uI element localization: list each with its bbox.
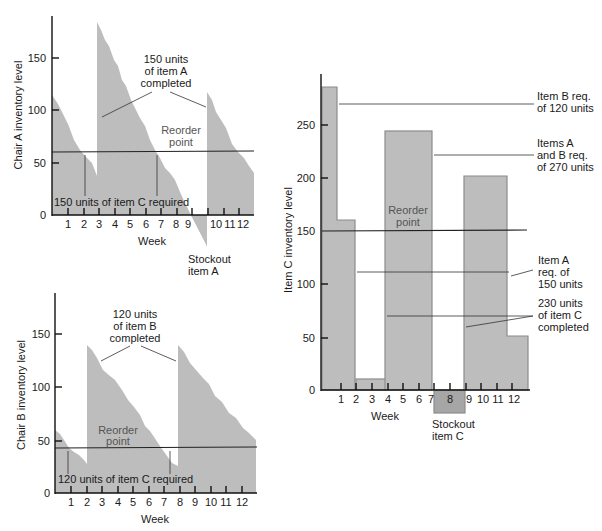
chart-c-reorder-label: Reorder xyxy=(388,204,428,216)
svg-text:7: 7 xyxy=(428,393,434,405)
svg-text:12: 12 xyxy=(508,393,520,405)
svg-text:7: 7 xyxy=(161,496,167,508)
chart-a-completed-annotation: 150 units xyxy=(144,53,189,65)
chart-b-ytick-0: 0 xyxy=(44,487,50,499)
svg-text:3: 3 xyxy=(369,393,375,405)
chart-c-item-b-annotation: Item B req. xyxy=(537,90,591,102)
svg-text:6: 6 xyxy=(416,393,422,405)
chart-a-required-annotation: 150 units of item C required xyxy=(54,196,189,208)
svg-text:1: 1 xyxy=(338,393,344,405)
svg-text:1: 1 xyxy=(68,496,74,508)
chart-a-stockout-annotation: Stockout xyxy=(188,253,231,265)
svg-text:and B req.: and B req. xyxy=(537,149,588,161)
svg-text:of item B: of item B xyxy=(113,320,156,332)
chart-a-xlabel: Week xyxy=(138,235,166,247)
chart-c-bar-weeks-9-12 xyxy=(464,176,528,390)
chart-b: 150 100 50 0 1 2 3 4 5 6 7 8 9 10 xyxy=(15,293,257,525)
svg-text:1: 1 xyxy=(65,218,71,230)
svg-text:2: 2 xyxy=(353,393,359,405)
chart-c-ytick-250: 250 xyxy=(297,119,315,131)
chart-b-ytick-100: 100 xyxy=(32,381,50,393)
chart-a-ytick-100: 100 xyxy=(28,104,46,116)
chart-c-ytick-0: 0 xyxy=(309,384,315,396)
chart-c-ytick-100: 100 xyxy=(297,278,315,290)
svg-text:9: 9 xyxy=(185,218,191,230)
svg-text:5: 5 xyxy=(127,218,133,230)
chart-c-items-ab-annotation: Items A xyxy=(537,137,574,149)
chart-b-leader-line xyxy=(141,346,176,361)
svg-text:12: 12 xyxy=(236,496,248,508)
chart-a-stockout-area xyxy=(191,215,207,246)
svg-text:2: 2 xyxy=(84,496,90,508)
svg-text:of item A: of item A xyxy=(145,65,188,77)
chart-c-ytick-150: 150 xyxy=(297,225,315,237)
svg-text:req. of: req. of xyxy=(538,266,570,278)
svg-text:item C: item C xyxy=(432,430,464,442)
chart-c-bar-weeks-4-7 xyxy=(385,131,432,390)
svg-text:4: 4 xyxy=(115,496,121,508)
chart-b-xlabel: Week xyxy=(141,513,169,525)
chart-b-leader-line xyxy=(101,346,130,361)
chart-c-ylabel: Item C inventory level xyxy=(282,187,294,293)
chart-c-stockout-annotation: Stockout xyxy=(432,418,475,430)
svg-text:of 270 units: of 270 units xyxy=(537,161,594,173)
chart-c: 250 200 150 100 50 0 1 2 3 4 5 6 7 8 xyxy=(282,74,594,442)
svg-text:11: 11 xyxy=(224,218,235,230)
svg-text:point: point xyxy=(169,136,193,148)
chart-c-xlabel: Week xyxy=(371,410,399,422)
chart-a-ytick-0: 0 xyxy=(40,209,46,221)
svg-text:8: 8 xyxy=(173,218,179,230)
chart-c-completed-annotation: 230 units xyxy=(538,297,583,309)
svg-text:of item C: of item C xyxy=(538,309,582,321)
chart-b-required-annotation: 120 units of item C required xyxy=(58,473,193,485)
chart-a-leader-line xyxy=(170,92,206,107)
svg-text:2: 2 xyxy=(81,218,87,230)
svg-text:12: 12 xyxy=(237,218,249,230)
chart-c-leader-item-a-tail xyxy=(511,270,533,276)
svg-text:11: 11 xyxy=(492,393,503,405)
svg-text:completed: completed xyxy=(538,321,589,333)
svg-text:point: point xyxy=(396,216,420,228)
chart-c-item-a-annotation: Item A xyxy=(538,254,570,266)
figure-canvas: 150 100 50 0 1 2 3 4 5 6 7 8 9 10 xyxy=(0,0,602,531)
svg-text:11: 11 xyxy=(220,496,231,508)
svg-text:point: point xyxy=(106,435,130,447)
svg-text:10: 10 xyxy=(205,496,217,508)
svg-text:7: 7 xyxy=(158,218,164,230)
chart-b-area xyxy=(55,345,256,493)
svg-text:completed: completed xyxy=(141,77,192,89)
svg-text:6: 6 xyxy=(143,218,149,230)
svg-text:3: 3 xyxy=(99,496,105,508)
svg-text:completed: completed xyxy=(110,332,161,344)
svg-text:4: 4 xyxy=(385,393,391,405)
svg-text:4: 4 xyxy=(112,218,118,230)
svg-text:150 units: 150 units xyxy=(538,278,583,290)
svg-text:6: 6 xyxy=(146,496,152,508)
svg-text:of 120 units: of 120 units xyxy=(537,102,594,114)
svg-text:8: 8 xyxy=(447,393,453,405)
chart-c-bar-weeks-0-2 xyxy=(322,87,355,390)
svg-text:8: 8 xyxy=(177,496,183,508)
chart-b-ylabel: Chair B inventory level xyxy=(15,340,27,450)
chart-a-ylabel: Chair A inventory level xyxy=(12,61,24,170)
chart-c-ytick-50: 50 xyxy=(303,332,315,344)
chart-b-ytick-50: 50 xyxy=(38,435,50,447)
chart-a-ytick-150: 150 xyxy=(28,52,46,64)
chart-a-reorder-label: Reorder xyxy=(161,124,201,136)
svg-text:item A: item A xyxy=(188,265,219,277)
svg-text:10: 10 xyxy=(477,393,489,405)
chart-b-completed-annotation: 120 units xyxy=(113,308,158,320)
chart-b-ytick-150: 150 xyxy=(32,328,50,340)
svg-text:5: 5 xyxy=(400,393,406,405)
chart-a: 150 100 50 0 1 2 3 4 5 6 7 8 9 10 xyxy=(12,16,254,277)
chart-a-mask xyxy=(52,216,191,256)
svg-text:5: 5 xyxy=(130,496,136,508)
chart-a-ytick-50: 50 xyxy=(34,157,46,169)
svg-text:9: 9 xyxy=(466,393,472,405)
svg-text:3: 3 xyxy=(96,218,102,230)
chart-c-ytick-200: 200 xyxy=(297,172,315,184)
svg-text:10: 10 xyxy=(210,218,222,230)
svg-text:9: 9 xyxy=(192,496,198,508)
